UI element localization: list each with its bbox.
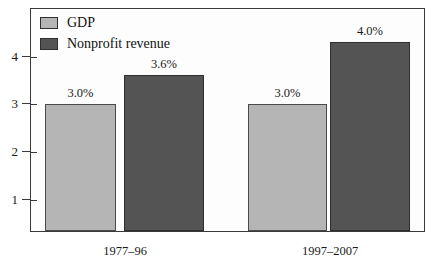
y-tick-label-2: 2 [12,142,19,162]
x-group-label-1997-2007: 1997–2007 [270,243,390,259]
legend-item-gdp: GDP [40,14,170,32]
y-axis: 4 3 2 1 [0,0,30,266]
legend-swatch-gdp-icon [40,17,58,29]
y-tick-inner-3 [30,104,37,105]
legend-label-gdp: GDP [67,14,95,32]
legend-swatch-nonprofit-icon [40,38,58,50]
legend-label-nonprofit: Nonprofit revenue [67,35,170,53]
bar-label-gdp-1977-96: 3.0% [45,86,116,101]
bar-nonprofit-1977-96 [124,75,204,231]
y-tick-inner-1 [30,200,37,201]
bar-gdp-1997-2007 [248,104,327,231]
y-tick-label-4: 4 [12,47,19,67]
legend: GDP Nonprofit revenue [40,14,170,56]
y-tick-mark-1 [22,199,30,200]
y-tick-mark-2 [22,151,30,152]
bar-chart: 4 3 2 1 3.0% 3.6% 1977–96 3.0% 4.0% 1997… [0,0,440,266]
bar-label-nonprofit-1977-96: 3.6% [124,57,204,72]
bar-gdp-1977-96 [45,104,116,231]
y-tick-inner-2 [30,152,37,153]
y-tick-mark-3 [22,103,30,104]
y-tick-label-3: 3 [12,94,19,114]
x-group-label-1977-96: 1977–96 [65,243,185,259]
y-tick-mark-4 [22,56,30,57]
bar-label-gdp-1997-2007: 3.0% [248,86,327,101]
y-tick-label-1: 1 [12,190,19,210]
y-tick-inner-4 [30,57,37,58]
bar-label-nonprofit-1997-2007: 4.0% [330,24,410,39]
legend-item-nonprofit: Nonprofit revenue [40,35,170,53]
bar-nonprofit-1997-2007 [330,42,410,231]
